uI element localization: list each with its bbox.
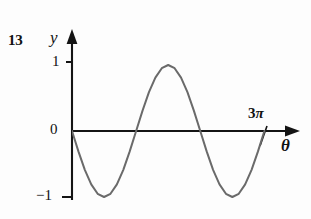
x-axis-arrowhead xyxy=(285,126,300,137)
question-number: 13 xyxy=(8,33,22,48)
y-axis-label: y xyxy=(50,29,58,46)
y-tick-label-one: 1 xyxy=(52,54,60,69)
pi-symbol: π xyxy=(256,105,264,121)
x-tick-label-three-pi: 3π xyxy=(248,106,264,121)
y-axis-arrowhead xyxy=(67,29,78,44)
figure-container: 13 y θ 1 0 −1 3π xyxy=(0,0,311,219)
y-tick-label-negative-one: −1 xyxy=(36,188,52,203)
three-pi-number: 3 xyxy=(248,105,256,121)
theta-axis-label: θ xyxy=(281,137,290,154)
y-tick-label-zero: 0 xyxy=(50,122,58,137)
